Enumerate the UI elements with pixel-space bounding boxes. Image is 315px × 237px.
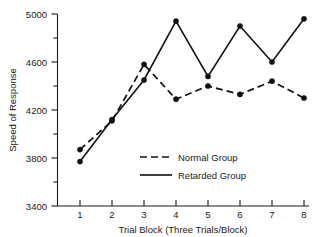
x-axis-title: Trial Block (Three Trials/Block)	[119, 224, 248, 235]
x-tick-label-7: 7	[269, 209, 274, 220]
data-point	[109, 117, 114, 122]
y-axis-title: Speed of Response	[7, 68, 18, 151]
x-tick-label-4: 4	[173, 209, 178, 220]
data-point	[141, 62, 146, 67]
data-point	[141, 77, 146, 82]
y-axis-major-ticks	[52, 14, 58, 206]
data-point	[237, 92, 242, 97]
x-tick-label-8: 8	[301, 209, 306, 220]
legend-label-normal-group: Normal Group	[178, 152, 238, 163]
x-tick-label-3: 3	[141, 209, 146, 220]
data-point	[173, 19, 178, 24]
x-axis-ticks	[80, 200, 304, 206]
data-point	[237, 23, 242, 28]
legend: Normal Group Retarded Group	[140, 152, 246, 181]
x-tick-label-2: 2	[109, 209, 114, 220]
y-tick-label-5000: 5000	[26, 9, 47, 20]
x-tick-label-6: 6	[237, 209, 242, 220]
data-point	[77, 159, 82, 164]
series-layer	[77, 16, 306, 164]
data-point	[205, 74, 210, 79]
y-tick-label-4200: 4200	[26, 105, 47, 116]
y-tick-label-4600: 4600	[26, 57, 47, 68]
series-line-retarded-group	[80, 19, 304, 162]
x-tick-label-5: 5	[205, 209, 210, 220]
line-chart: 5000 4600 4200 3800 3400 1 2 3 4 5 6 7 8…	[0, 0, 315, 237]
data-point	[269, 59, 274, 64]
data-point	[301, 95, 306, 100]
series-line-normal-group	[80, 64, 304, 149]
y-tick-label-3800: 3800	[26, 153, 47, 164]
data-point	[205, 83, 210, 88]
data-point	[269, 79, 274, 84]
data-point	[77, 147, 82, 152]
legend-label-retarded-group: Retarded Group	[178, 170, 246, 181]
chart-container: 5000 4600 4200 3800 3400 1 2 3 4 5 6 7 8…	[0, 0, 315, 237]
data-point	[173, 97, 178, 102]
data-point	[301, 16, 306, 21]
x-tick-label-1: 1	[77, 209, 82, 220]
y-tick-label-3400: 3400	[26, 201, 47, 212]
